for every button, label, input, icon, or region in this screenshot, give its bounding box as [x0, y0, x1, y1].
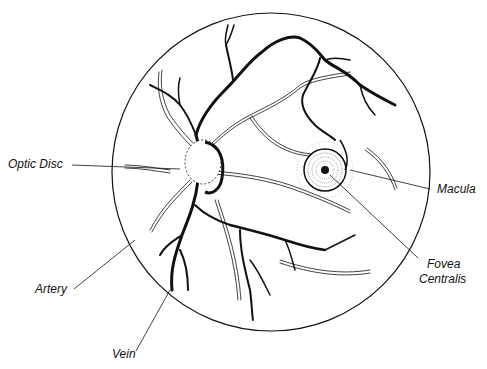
fovea — [321, 166, 329, 174]
label-artery: Artery — [35, 282, 67, 296]
label-vein: Vein — [112, 347, 136, 361]
arteries — [125, 70, 397, 300]
fundus-boundary — [112, 13, 430, 331]
label-optic-disc: Optic Disc — [8, 157, 63, 171]
label-fovea-line2: Centralis — [419, 272, 466, 286]
leader-lines — [72, 165, 430, 351]
label-fovea-line1: Fovea — [427, 257, 460, 271]
retina-diagram — [0, 0, 487, 369]
label-macula: Macula — [437, 182, 476, 196]
optic-disc — [185, 140, 223, 193]
